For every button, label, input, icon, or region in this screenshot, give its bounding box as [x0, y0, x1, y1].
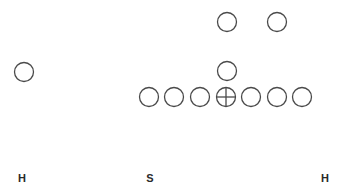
player-circle-icon [268, 13, 287, 32]
hash-label-right: H [321, 173, 329, 184]
player-circle-icon [218, 62, 237, 81]
hash-label-left: H [18, 173, 26, 184]
player-circle-icon [15, 63, 34, 82]
player-circle-icon [218, 13, 237, 32]
player-circle-icon [191, 88, 210, 107]
sideline-label-center: S [146, 173, 153, 184]
player-circle-icon [268, 88, 287, 107]
players-group [15, 13, 312, 107]
player-circle-icon [165, 88, 184, 107]
formation-diagram [0, 0, 338, 189]
player-circle-icon [140, 88, 159, 107]
player-circle-icon [242, 88, 261, 107]
player-circle-icon [293, 88, 312, 107]
